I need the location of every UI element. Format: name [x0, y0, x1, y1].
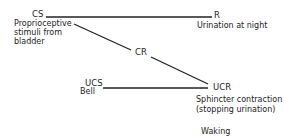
node-ucr-desc-2: (stopping urination) [196, 105, 275, 114]
diagram-caption: Waking [201, 127, 230, 136]
node-ucr-label: UCR [213, 83, 231, 92]
edge-cr-ucr [151, 57, 208, 84]
edge-cs-cr [74, 24, 131, 50]
node-r-label: R [214, 11, 220, 20]
node-r-desc: Urination at night [197, 21, 267, 30]
node-cr-label: CR [135, 48, 147, 57]
node-cs-label: CS [32, 10, 43, 19]
node-cs-desc-1: Proprioceptive [14, 19, 72, 28]
node-cs-desc-2: stimuli from [14, 28, 62, 37]
node-ucr-desc-1: Sphincter contraction [196, 95, 282, 104]
node-ucs-desc: Bell [80, 87, 95, 96]
node-cs-desc-3: bladder [14, 37, 45, 46]
